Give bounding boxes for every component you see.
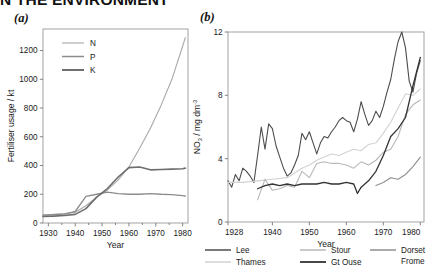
panel-b-x-tick-label: 1928 (225, 228, 244, 237)
panel-b-series-gt-ouse (258, 57, 421, 193)
panel-a-x-tick-label: 1930 (39, 229, 58, 238)
panel-b-series-dorset-frome (376, 157, 420, 186)
panel-a-y-tick-label: 1200 (19, 46, 38, 55)
panel-b-y-tick-label: 12 (213, 28, 223, 37)
panel-b-x-tick-label: 1960 (337, 228, 356, 237)
panel-a-y-tick-label: 400 (24, 161, 38, 170)
panel-b-x-tick-label: 1950 (300, 228, 319, 237)
panel-a-legend-label-k: K (90, 66, 96, 75)
panel-a-legend-label-p: P (90, 53, 96, 62)
panel-b-legend-label-dorset: Dorset (401, 246, 426, 255)
panel-b-y-tick-label: 8 (218, 91, 223, 100)
panel-b-y-axis-title: NO3 / mg dm-3 (192, 100, 203, 154)
panel-a-y-tick-label: 600 (24, 133, 38, 142)
panel-b-legend-label-dorset-line2: Frome (401, 257, 425, 266)
panel-b-y-tick-label: 0 (218, 218, 223, 227)
panel-b-legend-label-stour: Stour (331, 246, 351, 255)
panel-a-y-axis-title: Fertiliser usage / kt (6, 89, 16, 162)
panel-a-y-tick-label: 0 (33, 219, 38, 228)
panel-b-x-tick-label: 1970 (374, 228, 393, 237)
panel-a-series-k (43, 167, 185, 217)
panel-a-x-tick-label: 1960 (120, 229, 139, 238)
panel-a-legend-label-n: N (90, 39, 96, 48)
panel-b-x-tick-label: 1940 (263, 228, 282, 237)
panel-b-y-tick-label: 4 (218, 155, 223, 164)
panel-b-x-tick-label: 1980 (402, 228, 421, 237)
panel-b-legend-label-lee: Lee (236, 246, 250, 255)
panel-b-legend-label-thames: Thames (236, 258, 266, 267)
figure-canvas: 0200400600800100012001930194019501960197… (0, 0, 439, 275)
panel-b-series-lee (228, 32, 420, 187)
panel-b-legend-label-gt-ouse: Gt Ouse (331, 258, 362, 267)
panel-a-x-tick-label: 1980 (174, 229, 193, 238)
panel-a-y-tick-label: 800 (24, 104, 38, 113)
panel-a-series-n (43, 38, 185, 215)
panel-a-x-tick-label: 1950 (93, 229, 112, 238)
panel-a-y-tick-label: 200 (24, 190, 38, 199)
panel-b-nitrate-chart: 04812192819401950196019701980YearNO3 / m… (192, 28, 426, 267)
panel-a-fertiliser-chart: 0200400600800100012001930194019501960197… (6, 29, 192, 250)
panel-a-x-tick-label: 1940 (66, 229, 85, 238)
panel-a-y-tick-label: 1000 (19, 75, 38, 84)
panel-a-x-tick-label: 1970 (147, 229, 166, 238)
panel-a-series-p (43, 192, 185, 215)
panel-a-x-axis-title: Year (107, 240, 125, 250)
